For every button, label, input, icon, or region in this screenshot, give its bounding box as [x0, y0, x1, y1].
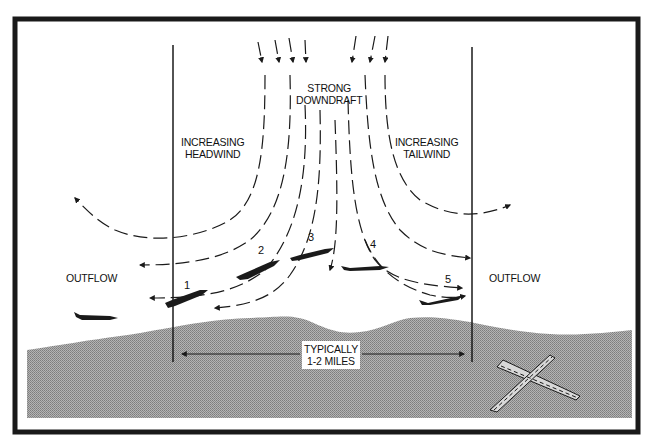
headwind-label-line1: INCREASING	[181, 136, 244, 148]
outflow-right-label: OUTFLOW	[489, 272, 540, 284]
position-number-2: 2	[258, 244, 264, 256]
distance-label: TYPICALLY 1-2 MILES	[304, 343, 358, 367]
outflow-left-label: OUTFLOW	[66, 272, 117, 284]
tailwind-label-line1: INCREASING	[395, 136, 458, 148]
downdraft-label-line1: STRONG	[296, 82, 362, 94]
position-number-3: 3	[308, 231, 314, 243]
diagram-canvas	[0, 0, 652, 440]
position-number-5: 5	[445, 273, 451, 285]
distance-label-line1: TYPICALLY	[304, 343, 358, 355]
tailwind-label-line2: TAILWIND	[395, 148, 458, 160]
position-number-1: 1	[184, 279, 190, 291]
downdraft-label: STRONG DOWNDRAFT	[296, 82, 362, 106]
tailwind-label: INCREASING TAILWIND	[395, 136, 458, 160]
headwind-label: INCREASING HEADWIND	[181, 136, 244, 160]
position-number-4: 4	[370, 238, 376, 250]
microburst-diagram: STRONG DOWNDRAFT INCREASING HEADWIND INC…	[0, 0, 652, 440]
headwind-label-line2: HEADWIND	[181, 148, 244, 160]
downdraft-label-line2: DOWNDRAFT	[296, 94, 362, 106]
distance-label-line2: 1-2 MILES	[304, 355, 358, 367]
